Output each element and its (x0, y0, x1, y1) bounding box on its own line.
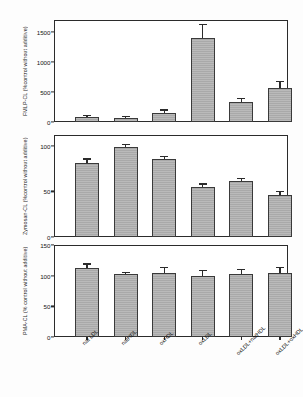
error-bar-cap (237, 178, 245, 179)
bar (268, 88, 292, 122)
bar (191, 276, 215, 337)
bar (75, 268, 99, 337)
error-bar-cap (160, 109, 168, 110)
error-bar (125, 273, 126, 274)
error-bar-cap (199, 183, 207, 184)
y-axis-label: FMLP-CL (%control without additive) (22, 6, 30, 136)
x-tick-mark (241, 337, 242, 340)
error-bar (125, 117, 126, 118)
y-tick-label: 0 (47, 334, 54, 341)
y-tick-label: 50 (44, 188, 54, 195)
error-bar-cap (122, 272, 130, 273)
bar (152, 113, 176, 122)
error-bar-cap (199, 270, 207, 271)
error-bar (86, 265, 87, 269)
bar (152, 159, 176, 237)
bar (229, 102, 253, 122)
error-bar (164, 157, 165, 159)
x-tick-mark (279, 337, 280, 340)
error-bar-cap (276, 267, 284, 268)
bar (268, 195, 292, 237)
y-tick-label: 0 (47, 119, 54, 126)
error-bar (202, 271, 203, 276)
error-bar (86, 160, 87, 164)
bar (114, 118, 138, 122)
bar (75, 163, 99, 237)
error-bar-cap (237, 269, 245, 270)
bar (152, 273, 176, 337)
error-bar-cap (83, 263, 91, 264)
bar (229, 274, 253, 337)
error-bar (164, 111, 165, 113)
y-tick-label: 0 (47, 234, 54, 241)
chemiluminescence-bar-chart-figure: FMLP-CL (%control without additive)05001… (0, 0, 303, 397)
bar (114, 274, 138, 337)
y-tick-label: 150 (40, 242, 54, 249)
y-tick-label: 100 (40, 142, 54, 149)
bar (114, 147, 138, 237)
y-axis-label: PMA-CL (% control without additive) (22, 231, 30, 351)
plot-area (54, 135, 288, 237)
error-bar (202, 25, 203, 39)
bar (191, 38, 215, 122)
y-tick-label: 1000 (37, 59, 54, 66)
error-bar (279, 82, 280, 89)
error-bar (86, 116, 87, 117)
error-bar (241, 179, 242, 181)
bar (75, 117, 99, 122)
plot-area (54, 20, 288, 122)
error-bar (241, 99, 242, 102)
error-bar (241, 270, 242, 274)
error-bar (279, 192, 280, 195)
error-bar-cap (83, 158, 91, 159)
error-bar-cap (276, 191, 284, 192)
y-tick-label: 1500 (37, 29, 54, 36)
y-tick-label: 50 (44, 303, 54, 310)
error-bar-cap (237, 98, 245, 99)
error-bar-cap (122, 144, 130, 145)
panel-zymosan-cl: Zymosan-CL (%control without additive)05… (54, 135, 288, 237)
error-bar (125, 145, 126, 146)
y-tick-label: 100 (40, 272, 54, 279)
error-bar (164, 268, 165, 272)
error-bar-cap (122, 116, 130, 117)
error-bar (202, 185, 203, 187)
error-bar-cap (83, 115, 91, 116)
error-bar (279, 268, 280, 273)
error-bar-cap (276, 81, 284, 82)
error-bar-cap (199, 24, 207, 25)
panel-fmlp-cl: FMLP-CL (%control without additive)05001… (54, 20, 288, 122)
error-bar-cap (160, 156, 168, 157)
bar (268, 273, 292, 337)
error-bar-cap (160, 267, 168, 268)
bar (229, 181, 253, 237)
y-tick-label: 500 (40, 89, 54, 96)
plot-area (54, 245, 288, 337)
panel-pma-cl: PMA-CL (% control without additive)05010… (54, 245, 288, 337)
bar (191, 187, 215, 237)
